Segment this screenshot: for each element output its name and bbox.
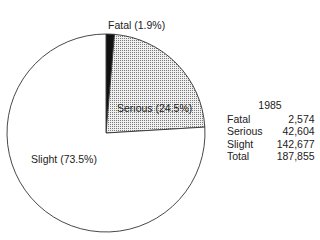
- legend-label: Serious: [227, 125, 263, 138]
- legend-label: Total: [227, 150, 263, 163]
- legend: 1985 Fatal 2,574 Serious 42,604 Slight 1…: [227, 99, 315, 163]
- legend-table: Fatal 2,574 Serious 42,604 Slight 142,67…: [227, 113, 315, 163]
- legend-label: Slight: [227, 138, 263, 151]
- slice-label-serious: Serious (24.5%): [117, 102, 192, 114]
- slice-label-slight: Slight (73.5%): [31, 153, 97, 165]
- legend-value: 42,604: [263, 125, 315, 138]
- legend-value: 2,574: [263, 113, 315, 126]
- legend-value: 142,677: [263, 138, 315, 151]
- pie-slice-serious: [106, 34, 205, 133]
- legend-value: 187,855: [263, 150, 315, 163]
- legend-row: Slight 142,677: [227, 138, 315, 151]
- legend-row: Total 187,855: [227, 150, 315, 163]
- legend-label: Fatal: [227, 113, 263, 126]
- slice-label-fatal: Fatal (1.9%): [108, 19, 165, 31]
- legend-row: Fatal 2,574: [227, 113, 315, 126]
- legend-year: 1985: [227, 99, 313, 112]
- legend-row: Serious 42,604: [227, 125, 315, 138]
